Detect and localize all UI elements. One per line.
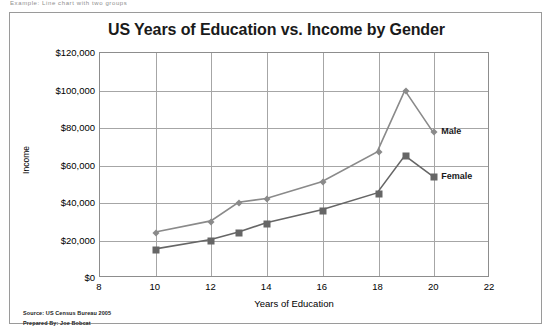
x-axis-tick-labels: 810121416182022 xyxy=(99,281,489,295)
x-tick-label: 16 xyxy=(317,281,328,292)
y-tick-label: $40,000 xyxy=(17,197,95,208)
data-point-female xyxy=(375,190,382,197)
chart-container: US Years of Education vs. Income by Gend… xyxy=(9,12,542,324)
chart-footnotes: Source: US Census Bureau 2005Prepared By… xyxy=(23,309,111,328)
x-axis-title: Years of Education xyxy=(99,298,489,309)
x-tick-label: 22 xyxy=(484,281,495,292)
data-point-female xyxy=(319,207,326,214)
data-point-male xyxy=(236,199,243,206)
data-point-female xyxy=(264,220,271,227)
cropped-caption-text: Example: Line chart with two groups xyxy=(10,0,127,6)
series-markers xyxy=(100,53,488,276)
x-tick-label: 20 xyxy=(428,281,439,292)
y-tick-label: $100,000 xyxy=(17,84,95,95)
y-tick-label: $0 xyxy=(17,272,95,283)
y-tick-label: $80,000 xyxy=(17,122,95,133)
data-point-male xyxy=(152,229,159,236)
data-point-male xyxy=(208,218,215,225)
data-point-female xyxy=(208,237,215,244)
x-tick-label: 12 xyxy=(205,281,216,292)
y-tick-label: $120,000 xyxy=(17,47,95,58)
footnote-line: Source: US Census Bureau 2005 xyxy=(23,309,111,319)
plot-area xyxy=(99,52,489,277)
x-tick-label: 10 xyxy=(149,281,160,292)
data-point-male xyxy=(319,179,326,186)
data-point-female xyxy=(152,246,159,253)
y-tick-label: $20,000 xyxy=(17,234,95,245)
data-point-female xyxy=(236,230,243,237)
series-label-female: Female xyxy=(441,171,472,181)
data-point-female xyxy=(431,173,438,180)
data-point-male xyxy=(431,128,438,135)
series-label-male: Male xyxy=(441,126,461,136)
data-point-female xyxy=(403,153,410,160)
data-point-male xyxy=(264,196,271,203)
x-tick-label: 8 xyxy=(96,281,101,292)
y-tick-label: $60,000 xyxy=(17,159,95,170)
chart-title: US Years of Education vs. Income by Gend… xyxy=(10,21,543,39)
data-point-male xyxy=(375,149,382,156)
footnote-line: Prepared By: Joe Bobcat xyxy=(23,319,111,329)
data-point-male xyxy=(403,87,410,94)
y-axis-tick-labels: $0$20,000$40,000$60,000$80,000$100,000$1… xyxy=(13,52,95,277)
x-tick-label: 14 xyxy=(261,281,272,292)
x-tick-label: 18 xyxy=(372,281,383,292)
